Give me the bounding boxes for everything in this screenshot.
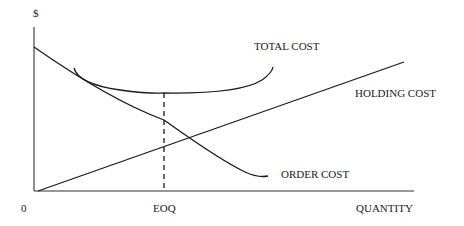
x-axis-label: QUANTITY xyxy=(356,202,413,214)
order-cost-label: ORDER COST xyxy=(281,168,349,180)
eoq-label: EOQ xyxy=(153,202,176,214)
eoq-chart: $ 0 EOQ QUANTITY TOTAL COST HOLDING COST… xyxy=(0,0,464,226)
y-axis-label: $ xyxy=(33,7,39,19)
origin-label: 0 xyxy=(21,202,27,214)
total-cost-label: TOTAL COST xyxy=(254,40,320,52)
order-cost-curve xyxy=(34,47,268,177)
holding-cost-label: HOLDING COST xyxy=(355,87,436,99)
total-cost-curve xyxy=(74,67,273,93)
